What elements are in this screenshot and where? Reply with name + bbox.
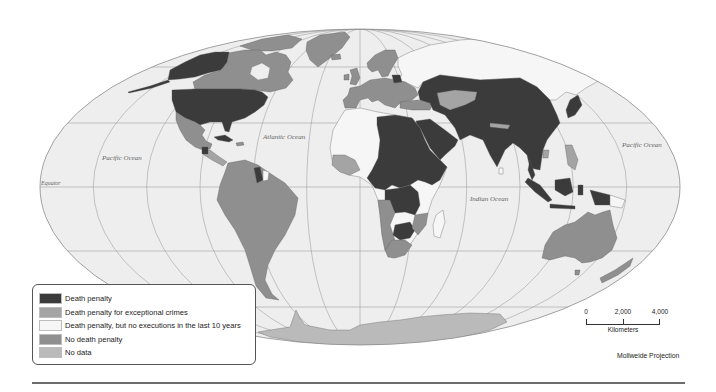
bottom-divider	[32, 382, 685, 384]
region-tasmania	[575, 270, 580, 275]
scale-unit-label: Kilometers	[608, 326, 639, 333]
scale-bar-line	[586, 324, 660, 325]
legend-item-exceptional-crimes: Death penalty for exceptional crimes	[39, 307, 188, 318]
scale-bar: 0 2,000 4,000 Kilometers	[580, 308, 670, 338]
scale-tick-label-4000: 4,000	[652, 308, 668, 315]
ocean-label-pacific-west: Pacific Ocean	[101, 154, 142, 162]
map-legend: Death penalty Death penalty for exceptio…	[32, 284, 256, 365]
legend-label: No death penalty	[65, 335, 122, 344]
region-sri-lanka	[499, 168, 503, 174]
region-suriname	[263, 170, 269, 181]
ocean-label-atlantic: Atlantic Ocean	[262, 133, 306, 141]
ocean-label-pacific-east: Pacific Ocean	[621, 141, 662, 149]
legend-swatch-no-executions	[39, 320, 62, 331]
ocean-label-indian: Indian Ocean	[469, 195, 509, 203]
legend-swatch-no-death-penalty	[39, 334, 62, 345]
legend-item-death-penalty: Death penalty	[39, 293, 112, 304]
legend-swatch-no-data	[39, 347, 62, 358]
scale-tick-label-0: 0	[584, 308, 588, 315]
projection-label: Mollweide Projection	[617, 352, 679, 359]
scale-tick-label-2000: 2,000	[615, 308, 631, 315]
region-guatemala	[202, 147, 208, 154]
legend-label: Death penalty	[65, 294, 112, 303]
region-ireland	[344, 74, 349, 80]
legend-swatch-exceptional-crimes	[39, 307, 62, 318]
legend-label: No data	[65, 348, 92, 357]
legend-item-no-data: No data	[39, 347, 92, 358]
region-iceland	[331, 54, 341, 60]
equator-label: Equator	[40, 180, 61, 186]
legend-item-no-death-penalty: No death penalty	[39, 334, 122, 345]
legend-label: Death penalty, but no executions in the …	[65, 321, 241, 330]
region-sulawesi	[578, 185, 583, 195]
region-laos	[543, 150, 549, 158]
legend-swatch-death-penalty	[39, 293, 62, 304]
legend-item-no-executions: Death penalty, but no executions in the …	[39, 320, 241, 331]
legend-label: Death penalty for exceptional crimes	[65, 308, 188, 317]
